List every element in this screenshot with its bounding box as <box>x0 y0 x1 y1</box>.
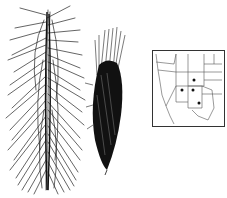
western-us-map <box>152 50 225 127</box>
spike-large-drawing <box>0 0 90 198</box>
grass-spikelet-dense-illustration <box>85 25 135 175</box>
grass-spike-large-illustration <box>0 0 90 198</box>
distribution-range-map <box>152 50 225 127</box>
spikelet-dense-drawing <box>85 25 135 175</box>
